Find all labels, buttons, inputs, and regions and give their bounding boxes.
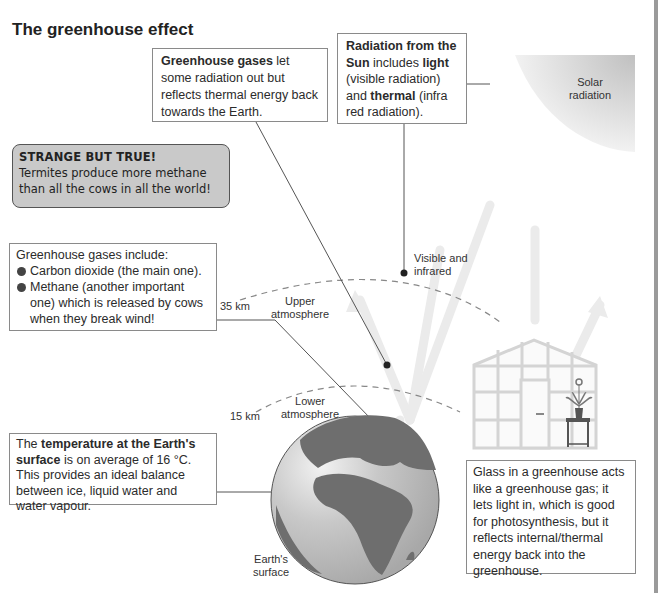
greenhouse-gases-list-note: Greenhouse gases include: Carbon dioxide… [9,243,217,331]
strange-but-true-callout: STRANGE BUT TRUE! Termites produce more … [12,144,230,208]
temperature-note: The temperature at the Earth's surface i… [9,433,217,505]
earths-surface-label: Earth's surface [248,553,294,579]
list-heading: Greenhouse gases include: [16,247,210,263]
earth-globe [271,415,439,584]
list-item: Methane (another important one) which is… [16,279,210,327]
note-bold: light [422,56,448,70]
callout-text: Termites produce more methane than all t… [19,165,223,197]
gases-list: Carbon dioxide (the main one). Methane (… [16,263,210,327]
greenhouse-illustration [474,340,596,448]
note-bold: thermal [370,89,415,103]
callout-heading: STRANGE BUT TRUE! [19,149,223,165]
solar-radiation-label: Solar radiation [560,76,620,102]
greenhouse-gases-note: Greenhouse gases let some radiation out … [152,48,328,122]
visible-infrared-label: Visible and infrared [414,252,484,278]
note-text: The [16,437,41,451]
radiation-from-sun-note: Radiation from the Sun includes light (v… [337,33,467,124]
list-item: Carbon dioxide (the main one). [16,263,210,279]
15km-label: 15 km [230,410,270,423]
note-bold: Greenhouse gases [161,54,273,68]
upper-atmosphere-label: Upper atmosphere [264,295,336,321]
lower-atmosphere-label: Lower atmosphere [274,395,346,421]
35km-label: 35 km [220,300,260,313]
note-text: includes [370,56,423,70]
glass-greenhouse-note: Glass in a greenhouse acts like a greenh… [466,460,636,574]
page-edge-bar [654,0,658,593]
sun-shape [515,55,635,152]
